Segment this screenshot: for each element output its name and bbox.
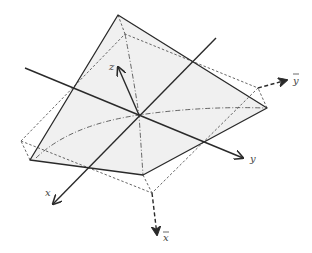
x-axis-label: x <box>45 187 51 198</box>
x-bar-axis-arrow <box>152 193 157 235</box>
z-axis-label: z <box>108 61 115 72</box>
x-bar-axis-label: x <box>163 232 169 243</box>
coordinate-diagram: z y x y x <box>0 0 312 253</box>
y-bar-axis-label: y <box>292 75 299 86</box>
y-bar-axis-arrow <box>258 80 287 88</box>
y-axis-label: y <box>249 153 256 164</box>
